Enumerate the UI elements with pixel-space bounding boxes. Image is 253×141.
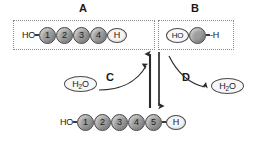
reaction-label-c: C (106, 71, 114, 83)
water-molecule-right: H2O (211, 78, 244, 94)
chain-bottom-right-end: H (166, 115, 186, 130)
monomer-a-3: 3 (73, 27, 90, 44)
panel-label-a: A (79, 2, 87, 14)
reaction-label-d: D (182, 71, 190, 83)
diagram-canvas: A B HO 1 2 3 4 H HO -H H2O C D H2O HO 1 … (0, 0, 253, 141)
chain-b-left-end: HO (166, 28, 189, 43)
monomer-bottom-3: 3 (111, 114, 128, 131)
water-molecule-left: H2O (64, 76, 97, 92)
monomer-bottom-4: 4 (128, 114, 145, 131)
monomer-a-4: 4 (90, 27, 107, 44)
monomer-bottom-2: 2 (94, 114, 111, 131)
chain-b: HO -H (166, 25, 219, 45)
monomer-a-2: 2 (56, 27, 73, 44)
chain-bottom: HO 1 2 3 4 5 H (60, 112, 186, 132)
monomer-b-1 (189, 27, 206, 44)
chain-bottom-left-end: HO (60, 118, 73, 127)
water-formula-right: H2O (219, 81, 236, 91)
monomer-a-1: 1 (39, 27, 56, 44)
chain-b-right-end: -H (210, 31, 219, 40)
panel-label-b: B (191, 2, 199, 14)
monomer-bottom-1: 1 (77, 114, 94, 131)
chain-a-left-end: HO (22, 31, 35, 40)
chain-a: HO 1 2 3 4 H (22, 25, 127, 45)
monomer-bottom-5: 5 (145, 114, 162, 131)
water-formula-left: H2O (72, 79, 89, 89)
chain-a-right-end: H (107, 28, 127, 43)
